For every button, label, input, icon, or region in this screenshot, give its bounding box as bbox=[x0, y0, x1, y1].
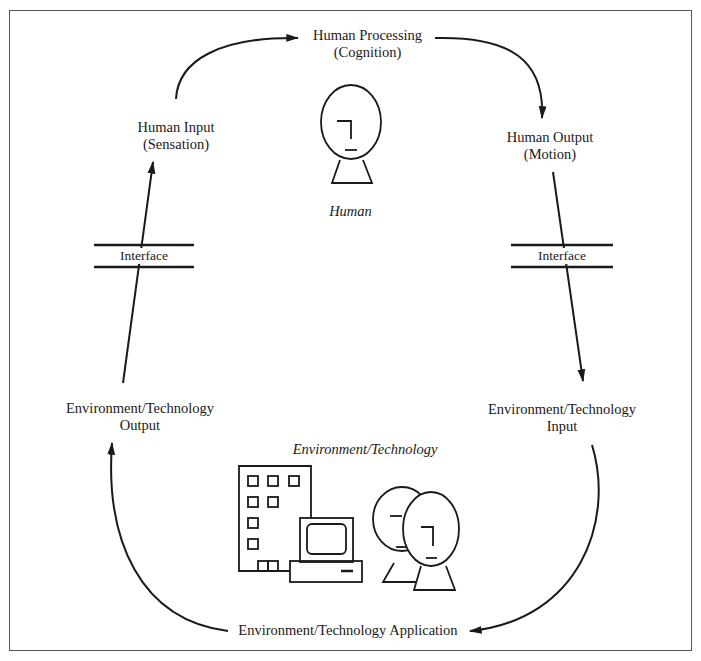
caption-human: Human bbox=[300, 203, 401, 220]
arrow-input-to-processing bbox=[176, 38, 298, 99]
node-human-input: Human Input (Sensation) bbox=[106, 119, 246, 153]
interface-right: Interface bbox=[528, 248, 596, 264]
arrow-output-to-env-input bbox=[553, 172, 583, 381]
node-env-output: Environment/Technology Output bbox=[50, 400, 230, 434]
node-human-output: Human Output (Motion) bbox=[480, 129, 620, 163]
arrow-env-input-to-application bbox=[470, 445, 599, 631]
interface-left: Interface bbox=[110, 248, 178, 264]
arrow-env-output-to-input bbox=[123, 162, 153, 383]
human-head-icon bbox=[321, 85, 381, 183]
node-human-processing: Human Processing (Cognition) bbox=[300, 27, 435, 61]
arrow-application-to-env-output bbox=[111, 443, 228, 631]
diagram-canvas bbox=[0, 0, 701, 661]
node-env-input: Environment/Technology Input bbox=[472, 401, 652, 435]
two-people-heads-icon bbox=[373, 487, 459, 590]
node-env-application: Environment/Technology Application bbox=[226, 622, 470, 639]
caption-environment: Environment/Technology bbox=[280, 441, 450, 458]
computer-terminal-icon bbox=[290, 518, 362, 582]
arrow-processing-to-output bbox=[435, 38, 542, 118]
